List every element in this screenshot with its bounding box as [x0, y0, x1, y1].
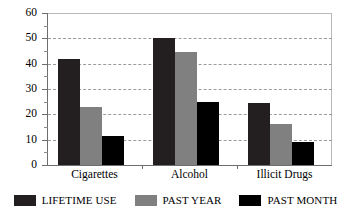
legend-swatch-icon	[239, 195, 261, 206]
y-tick-minor-45	[44, 51, 48, 52]
y-tick-major-60	[42, 13, 48, 14]
bar	[175, 52, 197, 165]
bar	[248, 103, 270, 165]
bar-chart: 0102030405060 CigarettesAlcoholIllicit D…	[0, 0, 351, 219]
y-tick-label: 30	[9, 83, 37, 95]
x-axis-label: Alcohol	[142, 168, 237, 180]
legend-swatch-icon	[14, 195, 36, 206]
legend-label: LIFETIME USE	[42, 194, 117, 206]
y-tick-minor-15	[44, 127, 48, 128]
x-axis-label: Illicit Drugs	[237, 168, 332, 180]
bar	[270, 124, 292, 165]
y-tick-major-20	[42, 114, 48, 115]
legend-label: PAST YEAR	[163, 194, 222, 206]
y-tick-major-30	[42, 89, 48, 90]
y-tick-label: 40	[9, 58, 37, 70]
legend-item: PAST MONTH	[239, 194, 337, 206]
legend-swatch-icon	[135, 195, 157, 206]
legend-item: PAST YEAR	[135, 194, 222, 206]
y-tick-label: 50	[9, 32, 37, 44]
legend-label: PAST MONTH	[267, 194, 337, 206]
bar	[292, 142, 314, 165]
y-tick-label: 0	[9, 159, 37, 171]
y-tick-label: 10	[9, 134, 37, 146]
y-tick-major-10	[42, 140, 48, 141]
y-tick-major-0	[42, 165, 48, 166]
y-tick-minor-55	[44, 26, 48, 27]
bar	[197, 102, 219, 165]
bar	[153, 38, 175, 165]
x-axis-label: Cigarettes	[47, 168, 142, 180]
y-tick-major-40	[42, 64, 48, 65]
bar	[80, 107, 102, 165]
y-tick-label: 20	[9, 108, 37, 120]
y-tick-major-50	[42, 38, 48, 39]
y-tick-minor-5	[44, 152, 48, 153]
legend-item: LIFETIME USE	[14, 194, 117, 206]
chart-legend: LIFETIME USEPAST YEARPAST MONTH	[0, 192, 351, 208]
bar	[58, 59, 80, 165]
bar	[102, 136, 124, 165]
gridline-50	[48, 38, 332, 39]
x-axis-line	[47, 165, 332, 166]
y-tick-minor-35	[44, 76, 48, 77]
y-tick-minor-25	[44, 102, 48, 103]
y-tick-label: 60	[9, 7, 37, 19]
